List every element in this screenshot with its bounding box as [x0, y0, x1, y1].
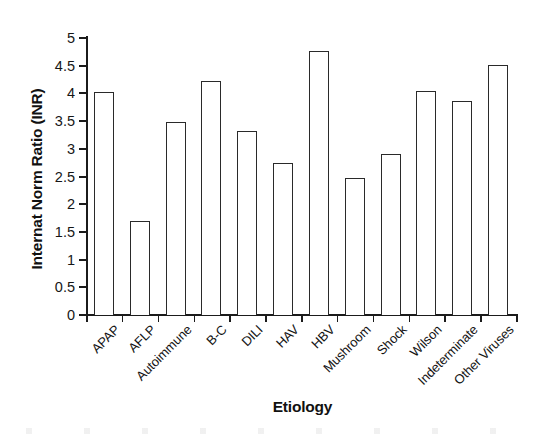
y-axis-tick-label: 4.5 — [30, 58, 75, 74]
x-axis-title: Etiology — [0, 398, 541, 416]
x-axis-tick — [229, 315, 231, 322]
x-axis-tick — [373, 315, 375, 322]
x-axis-tick — [409, 315, 411, 322]
bar — [381, 154, 401, 315]
bar — [273, 163, 293, 315]
y-axis-tick-label: 1.5 — [30, 224, 75, 240]
y-axis-tick-label: 3 — [30, 141, 75, 157]
bar — [201, 81, 221, 315]
y-axis-tick-label: 4 — [30, 85, 75, 101]
x-axis-tick — [480, 315, 482, 322]
bar — [345, 178, 365, 315]
bar — [94, 92, 114, 315]
y-axis-tick-label: 5 — [30, 30, 75, 46]
bar — [309, 51, 329, 315]
y-axis-tick-label: 0.5 — [30, 279, 75, 295]
bar — [488, 65, 508, 315]
bar — [166, 122, 186, 315]
plot-area — [86, 38, 516, 315]
bar-chart-figure: Internat Norm Ratio (INR) 00.511.522.533… — [0, 0, 541, 439]
x-axis-category-label: Shock — [373, 322, 409, 358]
x-axis-tick — [444, 315, 446, 322]
x-axis-category-label: HBV — [308, 322, 337, 351]
x-axis-tick — [301, 315, 303, 322]
bar — [130, 221, 150, 315]
bar — [237, 131, 257, 315]
x-axis-tick — [158, 315, 160, 322]
x-axis-tick — [265, 315, 267, 322]
x-axis-tick — [122, 315, 124, 322]
x-axis-category-label: HAV — [273, 322, 302, 351]
bar — [416, 91, 436, 315]
x-axis-category-label: B-C — [204, 322, 230, 348]
y-axis-tick-label: 3.5 — [30, 113, 75, 129]
y-axis-tick-label: 2 — [30, 196, 75, 212]
x-axis-category-label: DILI — [239, 322, 266, 349]
y-axis-tick-label: 1 — [30, 252, 75, 268]
scan-artifact — [0, 428, 541, 434]
x-axis-tick — [86, 315, 88, 322]
x-axis-title-text: Etiology — [273, 398, 333, 415]
x-axis-category-label: AFLP — [125, 322, 158, 355]
bar — [452, 101, 472, 315]
y-axis-tick-label: 2.5 — [30, 169, 75, 185]
x-axis-tick — [337, 315, 339, 322]
y-axis-tick-label: 0 — [30, 307, 75, 323]
x-axis-tick — [516, 315, 518, 322]
x-axis-category-label: APAP — [88, 322, 122, 356]
x-axis-tick — [194, 315, 196, 322]
